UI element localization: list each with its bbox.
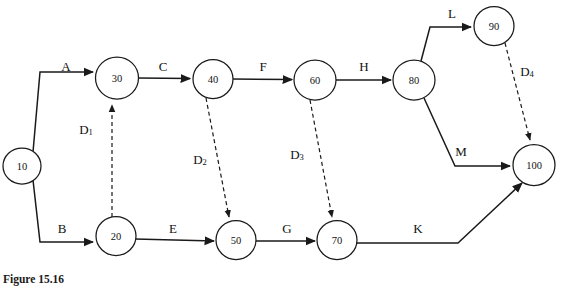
activity-label-H: H bbox=[359, 59, 368, 74]
activity-label-B: B bbox=[58, 221, 67, 236]
node-label: 80 bbox=[409, 75, 420, 86]
activity-label-M: M bbox=[455, 144, 467, 159]
node-label: 30 bbox=[112, 73, 123, 84]
activity-label-L: L bbox=[448, 6, 456, 21]
dummy-arrow-D4 bbox=[505, 43, 530, 140]
node-50[interactable]: 50 bbox=[216, 221, 256, 260]
figure-canvas: 10 20 30 40 50 60 70 80 bbox=[0, 0, 562, 286]
dummy-label-D2: D2 bbox=[193, 152, 207, 168]
dummy-subscript: 1 bbox=[89, 127, 93, 137]
activity-arrow-F bbox=[232, 79, 292, 80]
dummy-label-D4: D4 bbox=[520, 64, 534, 80]
node-60[interactable]: 60 bbox=[294, 60, 336, 100]
node-label: 60 bbox=[310, 75, 321, 86]
dummy-base: D bbox=[520, 64, 529, 79]
dummy-label-D3: D3 bbox=[290, 147, 304, 163]
dummy-base: D bbox=[193, 152, 202, 167]
activity-arrow-C bbox=[138, 78, 190, 79]
node-80[interactable]: 80 bbox=[393, 60, 435, 100]
activity-label-A: A bbox=[61, 59, 71, 74]
node-label: 10 bbox=[17, 161, 28, 172]
network-diagram: 10 20 30 40 50 60 70 80 bbox=[0, 0, 562, 286]
activity-label-E: E bbox=[169, 221, 177, 236]
dummy-base: D bbox=[79, 122, 88, 137]
node-20[interactable]: 20 bbox=[96, 217, 136, 256]
dummy-subscript: 4 bbox=[530, 69, 535, 79]
activity-arrow-K bbox=[356, 183, 522, 243]
activity-label-C: C bbox=[159, 59, 168, 74]
node-30[interactable]: 30 bbox=[96, 57, 139, 99]
dummy-base: D bbox=[290, 147, 299, 162]
node-label: 40 bbox=[208, 74, 219, 85]
node-100[interactable]: 100 bbox=[513, 145, 555, 186]
node-40[interactable]: 40 bbox=[193, 60, 233, 99]
dummy-arrow-D3 bbox=[310, 100, 332, 217]
node-label: 50 bbox=[231, 235, 242, 246]
figure-caption: Figure 15.16 bbox=[3, 272, 64, 286]
activity-label-F: F bbox=[259, 59, 266, 74]
activity-arrow-L bbox=[421, 27, 471, 61]
node-label: 90 bbox=[489, 21, 500, 32]
node-70[interactable]: 70 bbox=[317, 221, 357, 260]
node-label: 70 bbox=[332, 235, 343, 246]
dummy-arrow-D2 bbox=[206, 98, 229, 217]
activity-label-G: G bbox=[282, 221, 291, 236]
node-label: 20 bbox=[111, 231, 122, 242]
dummy-subscript: 2 bbox=[203, 157, 207, 167]
dummy-label-D1: D1 bbox=[79, 122, 93, 138]
activity-arrow-E bbox=[135, 239, 214, 241]
node-90[interactable]: 90 bbox=[474, 7, 514, 46]
activity-arrow-M bbox=[424, 98, 510, 166]
dummy-subscript: 3 bbox=[300, 152, 304, 162]
activity-label-K: K bbox=[413, 221, 423, 236]
activity-arrow-A bbox=[33, 72, 93, 152]
node-label: 100 bbox=[526, 160, 542, 171]
node-10[interactable]: 10 bbox=[3, 148, 41, 184]
